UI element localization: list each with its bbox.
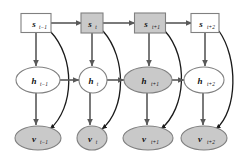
visible-layer: v t−1 v t v t+1 v t+2 [15, 126, 227, 150]
node-h-t-plus-1[interactable]: h t+1 [124, 67, 172, 93]
node-sublabel-s-t-minus-1: t−1 [39, 24, 47, 30]
node-v-t-minus-1[interactable]: v t−1 [15, 126, 61, 150]
node-label-h-t: h [88, 76, 93, 86]
node-v-t[interactable]: v t [77, 126, 107, 150]
node-label-h-t-plus-1: h [141, 76, 146, 86]
node-label-h-t-plus-2: h [197, 76, 202, 86]
node-shape-v-t-plus-1[interactable] [123, 126, 173, 150]
node-shape-h-t-plus-2[interactable] [184, 67, 224, 93]
node-sublabel-h-t-plus-1: t+1 [151, 81, 159, 87]
node-shape-h-t-minus-1[interactable] [16, 67, 60, 93]
node-sublabel-s-t-plus-1: t+1 [152, 24, 160, 30]
node-shape-v-t[interactable] [77, 126, 107, 150]
node-sublabel-h-t-plus-2: t+2 [207, 81, 215, 87]
node-h-t-plus-2[interactable]: h t+2 [184, 67, 224, 93]
node-h-t[interactable]: h t [79, 67, 107, 93]
diagram-canvas: s t−1 s t s t+1 s t+2 h [0, 0, 238, 163]
node-sublabel-s-t-plus-2: t+2 [207, 24, 215, 30]
node-sublabel-v-t-plus-1: t+1 [151, 139, 159, 145]
node-label-s-t: s [87, 19, 92, 29]
node-s-t-minus-1[interactable]: s t−1 [21, 14, 51, 33]
node-s-t[interactable]: s t [81, 13, 103, 33]
node-shape-h-t-plus-1[interactable] [124, 67, 172, 93]
node-v-t-plus-2[interactable]: v t+2 [181, 126, 227, 150]
node-v-t-plus-1[interactable]: v t+1 [123, 126, 173, 150]
node-label-s-t-plus-1: s [143, 19, 148, 29]
node-shape-s-t-plus-1[interactable] [135, 13, 166, 33]
node-shape-v-t-minus-1[interactable] [15, 126, 61, 150]
node-label-s-t-minus-1: s [31, 19, 36, 29]
node-s-t-plus-1[interactable]: s t+1 [135, 13, 166, 33]
node-s-t-plus-2[interactable]: s t+2 [191, 14, 219, 33]
node-shape-v-t-plus-2[interactable] [181, 126, 227, 150]
node-sublabel-v-t-plus-2: t+2 [207, 139, 215, 145]
node-shape-s-t[interactable] [81, 13, 103, 33]
graphical-model-diagram: s t−1 s t s t+1 s t+2 h [0, 0, 238, 163]
node-h-t-minus-1[interactable]: h t−1 [16, 67, 60, 93]
node-label-h-t-minus-1: h [31, 76, 36, 86]
node-sublabel-v-t-minus-1: t−1 [40, 139, 48, 145]
node-sublabel-h-t-minus-1: t−1 [40, 81, 48, 87]
node-label-s-t-plus-2: s [198, 19, 203, 29]
